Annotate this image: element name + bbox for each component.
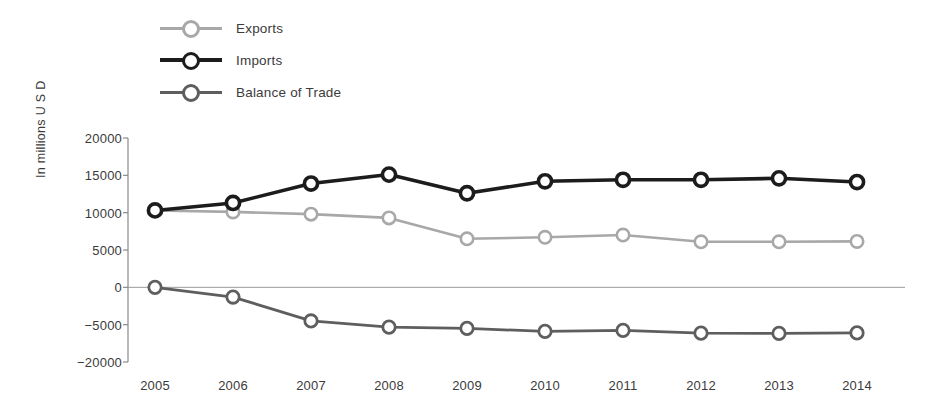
data-point-marker[interactable] (773, 236, 785, 248)
data-point-marker[interactable] (617, 324, 629, 336)
plot-area: In millions U S D 20000150001000050000−5… (0, 0, 945, 418)
series-imports (148, 168, 863, 217)
data-point-marker[interactable] (149, 281, 161, 293)
data-point-marker[interactable] (538, 175, 551, 188)
plot-svg (0, 0, 945, 418)
series-line (155, 287, 857, 333)
data-point-marker[interactable] (772, 172, 785, 185)
data-series-group (148, 168, 863, 340)
data-point-marker[interactable] (383, 321, 395, 333)
data-point-marker[interactable] (304, 177, 317, 190)
y-axis (123, 138, 128, 362)
data-point-marker[interactable] (461, 322, 473, 334)
data-point-marker[interactable] (851, 327, 863, 339)
data-point-marker[interactable] (227, 291, 239, 303)
data-point-marker[interactable] (850, 175, 863, 188)
data-point-marker[interactable] (617, 229, 629, 241)
series-balance-of-trade (149, 281, 863, 339)
series-exports (149, 204, 863, 248)
data-point-marker[interactable] (461, 233, 473, 245)
data-point-marker[interactable] (695, 236, 707, 248)
data-point-marker[interactable] (539, 325, 551, 337)
data-point-marker[interactable] (694, 173, 707, 186)
data-point-marker[interactable] (383, 212, 395, 224)
series-line (155, 210, 857, 241)
data-point-marker[interactable] (148, 204, 161, 217)
data-point-marker[interactable] (539, 231, 551, 243)
data-point-marker[interactable] (382, 168, 395, 181)
series-line (155, 175, 857, 211)
trade-line-chart: Exports Imports Balance of Trade In mill… (0, 0, 945, 418)
data-point-marker[interactable] (305, 208, 317, 220)
data-point-marker[interactable] (616, 173, 629, 186)
data-point-marker[interactable] (226, 196, 239, 209)
data-point-marker[interactable] (695, 327, 707, 339)
data-point-marker[interactable] (305, 315, 317, 327)
data-point-marker[interactable] (460, 187, 473, 200)
data-point-marker[interactable] (773, 327, 785, 339)
data-point-marker[interactable] (851, 235, 863, 247)
